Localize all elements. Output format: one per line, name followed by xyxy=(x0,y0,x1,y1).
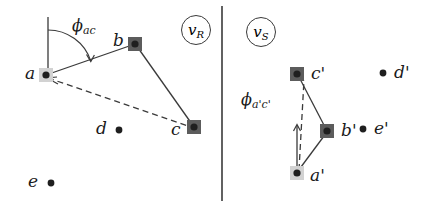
node-label-cp: c' xyxy=(311,65,325,82)
figure-canvas: ϕac vR a b c d e ϕa'c' vS a' b' c' d' e' xyxy=(0,0,440,207)
edge-a-c-dashed xyxy=(48,78,191,127)
node-label-ep: e' xyxy=(374,120,389,137)
node-label-a: a xyxy=(25,65,35,82)
panel-badge-left: vR xyxy=(181,15,211,45)
edge-b-c xyxy=(136,45,194,127)
node-label-ap: a' xyxy=(310,167,325,184)
edge-bp-cp xyxy=(299,77,326,129)
edge-ap-cp-dashed xyxy=(299,80,304,170)
angle-subscript-right: a'c' xyxy=(252,98,271,111)
node-dot-a xyxy=(42,71,49,78)
node-dot-ap xyxy=(293,169,300,176)
diagram-svg xyxy=(0,0,440,207)
angle-label-right: ϕa'c' xyxy=(241,92,271,110)
angle-symbol-left: ϕ xyxy=(72,16,83,35)
node-dot-c xyxy=(190,123,197,130)
node-dot-e xyxy=(48,180,55,187)
node-label-dp: d' xyxy=(394,64,410,81)
node-label-e: e xyxy=(28,173,38,190)
panel-badge-right-text: vS xyxy=(253,23,268,42)
node-dot-cp xyxy=(293,70,300,77)
panel-badge-right: vS xyxy=(246,17,276,47)
angle-symbol-right: ϕ xyxy=(241,90,252,109)
node-label-b: b xyxy=(113,32,124,49)
node-dot-bp xyxy=(323,127,330,134)
panel-badge-left-text: vR xyxy=(188,21,204,40)
angle-label-left: ϕac xyxy=(72,18,96,36)
node-dot-d xyxy=(116,127,123,134)
angle-subscript-left: ac xyxy=(83,24,96,37)
node-dot-dp xyxy=(380,70,387,77)
node-dot-b xyxy=(131,40,138,47)
node-label-c: c xyxy=(171,121,181,138)
node-label-d: d xyxy=(96,120,107,137)
node-dot-ep xyxy=(360,126,367,133)
node-label-bp: b' xyxy=(341,122,357,139)
